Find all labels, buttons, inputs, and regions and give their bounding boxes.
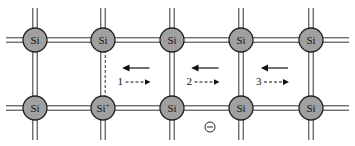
atom-label: Si — [306, 102, 315, 114]
atom-label: Si — [30, 102, 39, 114]
lattice-diagram: SiSiSiSiSiSiSi+SiSiSi123 — [0, 0, 355, 146]
step-number: 3 — [256, 75, 262, 87]
atom-label: Si — [236, 34, 245, 46]
atom-label: Si — [98, 34, 107, 46]
atom-label: Si — [306, 34, 315, 46]
step-number: 2 — [187, 75, 193, 87]
step-number: 1 — [118, 75, 124, 87]
lattice-svg: SiSiSiSiSiSiSi+SiSiSi123 — [0, 0, 355, 146]
atom-label: Si — [167, 102, 176, 114]
atom-label: Si — [236, 102, 245, 114]
atom-label: Si — [30, 34, 39, 46]
atom-label: Si — [167, 34, 176, 46]
